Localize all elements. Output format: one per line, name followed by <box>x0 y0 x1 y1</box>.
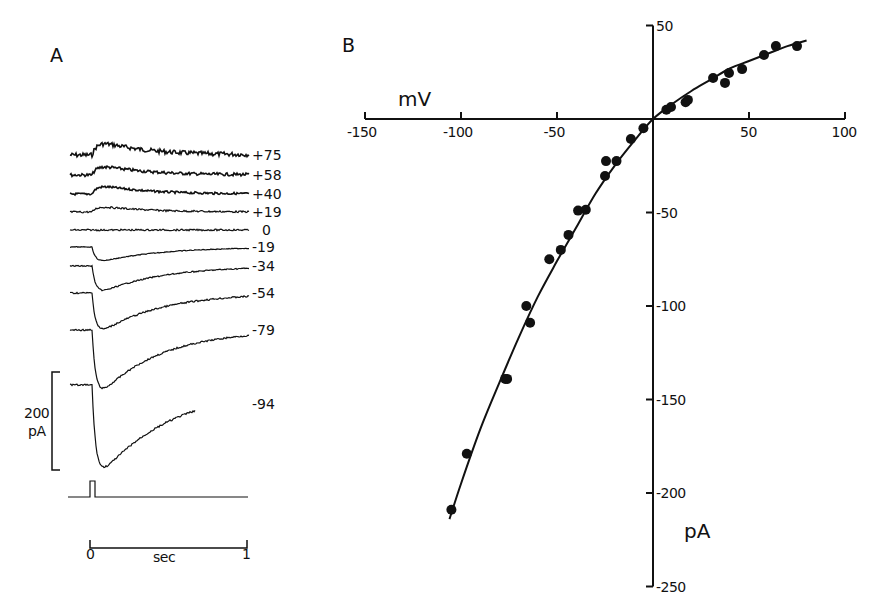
x-tick-label: -50 <box>544 124 565 140</box>
y-tick-label: -150 <box>656 392 686 408</box>
x-axis-title: mV <box>398 87 431 111</box>
data-point <box>792 41 802 51</box>
panel-b-label: B <box>342 34 355 56</box>
data-point <box>581 205 591 215</box>
data-point <box>683 95 693 105</box>
x-tick-label: -150 <box>347 124 377 140</box>
current-trace <box>70 329 249 388</box>
trace-voltage-label: +58 <box>252 167 282 183</box>
data-point <box>626 134 636 144</box>
current-traces <box>70 143 249 468</box>
x-tick-label: 50 <box>740 124 757 140</box>
y-tick-label: 50 <box>656 18 673 34</box>
current-trace <box>70 186 249 195</box>
scale-bar-value: 200 <box>24 405 49 421</box>
trace-voltage-label: -79 <box>252 322 275 338</box>
trace-voltage-label: +19 <box>252 204 282 220</box>
data-point <box>556 245 566 255</box>
data-point <box>502 374 512 384</box>
time-bar-start: 0 <box>86 546 94 562</box>
y-tick-label: -250 <box>656 579 686 595</box>
data-point <box>521 301 531 311</box>
data-point <box>708 73 718 83</box>
current-trace <box>70 265 249 290</box>
scale-bar-unit: pA <box>28 423 46 439</box>
stimulus-pulse <box>68 481 248 497</box>
current-trace <box>70 292 249 328</box>
trace-voltage-label: -54 <box>252 285 275 301</box>
trace-voltage-label: +40 <box>252 186 282 202</box>
current-scale-bar: 200 pA <box>24 372 60 470</box>
trace-voltage-labels: +75+58+40+190-19-34-54-79-94 <box>252 147 282 412</box>
current-trace <box>70 247 249 261</box>
data-point <box>544 254 554 264</box>
current-trace <box>70 384 195 467</box>
y-axis-title: pA <box>684 519 711 543</box>
trace-voltage-label: 0 <box>262 222 271 238</box>
trace-voltage-label: -34 <box>252 258 275 274</box>
trace-voltage-label: +75 <box>252 147 282 163</box>
x-tick-label: 100 <box>832 124 857 140</box>
data-point <box>720 78 730 88</box>
y-tick-label: -100 <box>656 298 686 314</box>
x-tick-label: -100 <box>443 124 473 140</box>
time-bar-unit: sec <box>153 549 175 565</box>
trace-voltage-label: -94 <box>252 396 275 412</box>
current-trace <box>70 143 249 157</box>
data-point <box>771 41 781 51</box>
panel-a: A +75+58+40+190-19-34-54-79-94 200 pA 0 … <box>24 44 282 565</box>
data-point <box>666 102 676 112</box>
panel-b: B -150-100-505010050-50-100-150-200-250 … <box>342 18 857 595</box>
trace-voltage-label: -19 <box>252 239 275 255</box>
figure: A +75+58+40+190-19-34-54-79-94 200 pA 0 … <box>0 0 875 612</box>
data-point <box>612 156 622 166</box>
time-bar-end: 1 <box>242 546 250 562</box>
current-trace <box>70 229 249 231</box>
y-tick-label: -50 <box>656 205 677 221</box>
data-point <box>462 449 472 459</box>
data-point <box>638 123 648 133</box>
data-point <box>724 68 734 78</box>
data-point <box>600 171 610 181</box>
time-scale-bar: 0 sec 1 <box>86 540 250 565</box>
data-point <box>601 156 611 166</box>
data-point <box>759 50 769 60</box>
data-point <box>564 230 574 240</box>
y-tick-label: -200 <box>656 485 686 501</box>
current-trace <box>70 166 249 176</box>
data-point <box>525 318 535 328</box>
fit-curve <box>449 41 806 520</box>
panel-a-label: A <box>50 44 63 66</box>
data-point <box>446 505 456 515</box>
data-point <box>737 64 747 74</box>
current-trace <box>70 207 249 213</box>
